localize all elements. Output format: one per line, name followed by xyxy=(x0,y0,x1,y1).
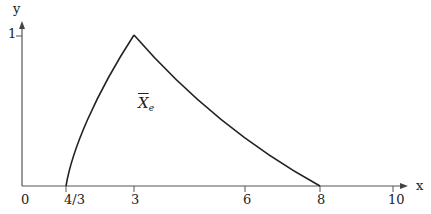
left-curve xyxy=(66,35,134,186)
region-label-x-bar-e: Xe xyxy=(138,96,154,113)
region-label-subscript: e xyxy=(149,103,154,113)
x-axis-arrow-icon xyxy=(400,183,408,189)
x-tick-label-8: 8 xyxy=(317,193,325,206)
x-tick-label-10: 10 xyxy=(388,193,405,206)
x-tick-label-4-3: 4/3 xyxy=(64,193,85,206)
region-label-main: X xyxy=(138,94,149,112)
x-axis-label: x xyxy=(416,179,423,192)
x-tick-label-6: 6 xyxy=(243,193,251,206)
y-axis-label: y xyxy=(13,2,20,15)
y-tick-label-1: 1 xyxy=(8,27,16,40)
chart-plot-area xyxy=(0,0,431,214)
y-axis-arrow-icon xyxy=(19,21,25,29)
x-tick-label-3: 3 xyxy=(131,193,139,206)
x-tick-label-0: 0 xyxy=(21,193,29,206)
right-curve xyxy=(134,35,320,186)
